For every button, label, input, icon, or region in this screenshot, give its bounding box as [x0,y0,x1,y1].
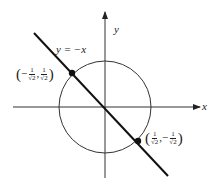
point-lower-right [135,138,141,144]
x-axis-label: x [202,101,207,112]
diagram-canvas [0,0,217,190]
y-axis-label: y [114,24,119,35]
point-upper-left [69,70,75,76]
line-y-equals-neg-x [34,33,168,176]
point-upper-left-label: (−1√2,1√2) [16,67,54,82]
line-equation-label: y = −x [56,44,86,55]
point-lower-right-label: (1√2,−1√2) [145,131,183,146]
